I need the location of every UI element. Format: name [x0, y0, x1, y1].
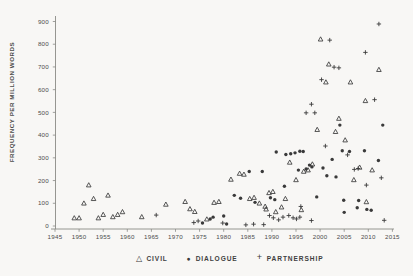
data-point-civil — [283, 196, 288, 200]
data-point-civil — [106, 193, 111, 197]
data-point-civil — [352, 177, 357, 181]
plus-icon: + — [257, 252, 263, 262]
data-point-partnership — [382, 218, 386, 222]
y-tick-label: 0 — [45, 222, 49, 229]
data-point-partnership — [299, 204, 303, 208]
x-tick-label: 1975 — [192, 233, 207, 240]
data-point-civil — [252, 195, 257, 199]
data-point-partnership — [262, 222, 266, 226]
data-point-civil — [96, 216, 101, 220]
data-point-partnership — [377, 22, 381, 26]
y-tick-label: 500 — [38, 109, 49, 116]
data-point-partnership — [364, 183, 368, 187]
data-point-civil — [205, 217, 210, 221]
data-point-civil — [271, 189, 276, 193]
data-point-dialogue — [273, 198, 276, 201]
data-point-civil — [188, 207, 193, 211]
x-tick-label: 1960 — [120, 233, 135, 240]
data-point-dialogue — [315, 195, 318, 198]
data-point-civil — [111, 215, 116, 219]
data-point-dialogue — [293, 151, 296, 154]
x-tick-label: 1980 — [216, 233, 231, 240]
data-point-partnership — [276, 218, 280, 222]
x-tick-label: 2005 — [337, 233, 352, 240]
data-point-partnership — [313, 111, 317, 115]
data-point-dialogue — [381, 123, 384, 126]
data-point-dialogue — [261, 170, 264, 173]
filled-circle-icon: ● — [187, 255, 192, 262]
data-point-partnership — [267, 213, 271, 217]
data-point-civil — [364, 200, 369, 204]
legend-label-partnership: PARTNERSHIP — [267, 255, 324, 262]
data-point-dialogue — [239, 197, 242, 200]
data-point-civil — [299, 207, 304, 211]
data-point-dialogue — [325, 174, 328, 177]
data-point-dialogue — [248, 170, 251, 173]
data-point-civil — [247, 196, 252, 200]
data-point-civil — [264, 207, 269, 211]
data-point-partnership — [345, 153, 349, 157]
y-tick-label: 800 — [38, 40, 49, 47]
data-point-civil — [139, 215, 144, 219]
data-point-partnership — [271, 216, 275, 220]
data-point-civil — [377, 67, 382, 71]
data-point-dialogue — [298, 150, 301, 153]
x-tick-label: 1985 — [240, 233, 255, 240]
data-point-civil — [91, 196, 96, 200]
y-tick-label: 900 — [38, 18, 49, 25]
data-point-dialogue — [341, 149, 344, 152]
data-point-civil — [192, 209, 197, 213]
data-point-dialogue — [209, 217, 212, 220]
chart-legend: △ CIVIL ● DIALOGUE + PARTNERSHIP — [23, 253, 413, 263]
data-point-partnership — [328, 38, 332, 42]
x-tick-label: 1970 — [168, 233, 183, 240]
data-point-dialogue — [357, 199, 360, 202]
data-point-dialogue — [342, 199, 345, 202]
data-point-partnership — [192, 220, 196, 224]
y-tick-label: 600 — [38, 86, 49, 93]
data-point-dialogue — [225, 222, 228, 225]
data-point-civil — [164, 202, 169, 206]
data-point-civil — [326, 62, 331, 66]
legend-label-civil: CIVIL — [146, 255, 167, 262]
data-point-civil — [363, 98, 368, 102]
x-tick-label: 2000 — [313, 233, 328, 240]
data-point-partnership — [363, 50, 367, 54]
y-axis-title: FREQUENCY PER MILLION WORDS — [8, 42, 15, 163]
chart-page: 0100200300400500600700800900194519501955… — [0, 0, 413, 276]
y-tick-label: 200 — [38, 177, 49, 184]
data-point-dialogue — [310, 165, 313, 168]
y-tick-label: 400 — [38, 131, 49, 138]
data-point-partnership — [304, 111, 308, 115]
data-point-partnership — [196, 219, 200, 223]
data-point-dialogue — [201, 221, 204, 224]
data-point-civil — [333, 129, 338, 133]
x-tick-label: 1965 — [144, 233, 159, 240]
data-point-civil — [242, 172, 247, 176]
data-point-civil — [101, 212, 106, 216]
data-point-civil — [315, 127, 320, 131]
data-point-partnership — [281, 215, 285, 219]
data-point-dialogue — [289, 152, 292, 155]
data-point-dialogue — [269, 196, 272, 199]
data-point-dialogue — [284, 153, 287, 156]
triangle-icon: △ — [136, 253, 143, 262]
data-point-partnership — [309, 102, 313, 106]
data-point-civil — [318, 37, 323, 41]
data-point-dialogue — [348, 150, 351, 153]
data-point-dialogue — [302, 150, 305, 153]
data-point-civil — [217, 199, 222, 203]
data-point-dialogue — [356, 206, 359, 209]
legend-item-partnership: + PARTNERSHIP — [257, 253, 324, 263]
data-point-partnership — [154, 213, 158, 217]
data-point-partnership — [332, 65, 336, 69]
data-point-partnership — [337, 66, 341, 70]
data-point-dialogue — [363, 149, 366, 152]
data-point-civil — [348, 80, 353, 84]
data-point-civil — [212, 200, 217, 204]
data-point-partnership — [309, 218, 313, 222]
x-tick-label: 1990 — [265, 233, 280, 240]
data-point-civil — [77, 216, 82, 220]
data-point-partnership — [372, 97, 376, 101]
data-point-partnership — [244, 223, 248, 227]
